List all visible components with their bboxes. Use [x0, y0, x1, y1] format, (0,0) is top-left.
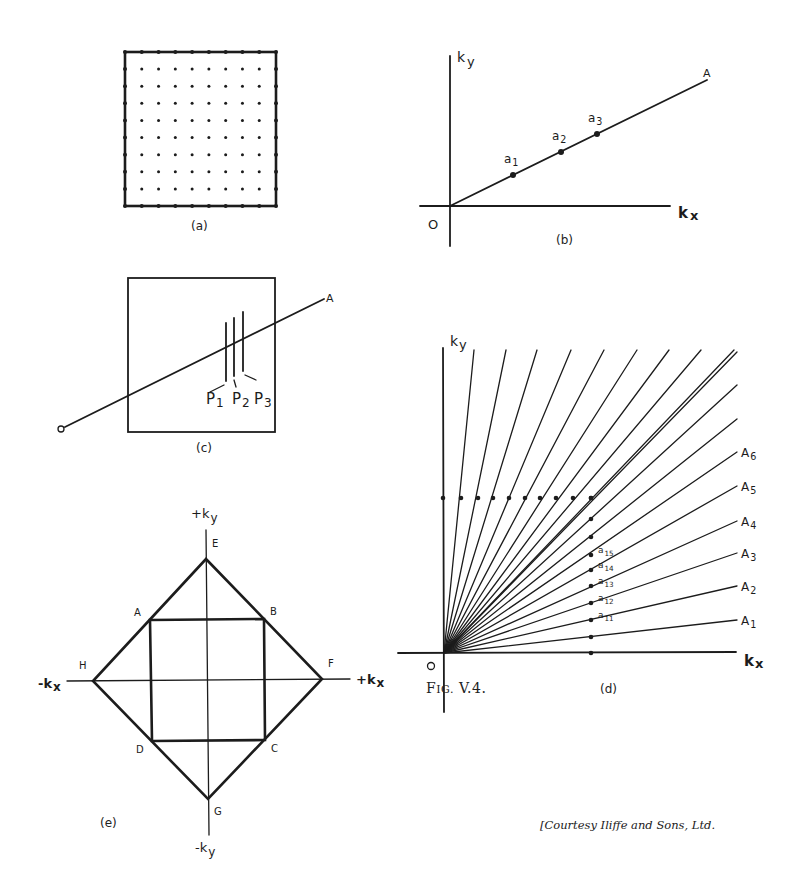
- lattice-point: [157, 102, 160, 105]
- figure-title: FIG. V.4.: [426, 680, 486, 696]
- ray: [444, 350, 701, 653]
- lattice-point: [241, 102, 244, 105]
- lattice-point: [258, 170, 261, 173]
- lattice-point: [157, 119, 160, 122]
- origin-label: O: [428, 217, 438, 232]
- ky-axis: [206, 530, 209, 835]
- panel-c-planes: P1P2P3 A (c): [58, 278, 334, 455]
- lattice-point: [241, 85, 244, 88]
- b-points: a1a2a3: [504, 111, 602, 178]
- lattice-point: [191, 153, 194, 156]
- k-point: [589, 584, 594, 589]
- k-point: [554, 496, 559, 501]
- d-labels: A6A5A4A3A2A1a15a14a13a12a11: [598, 446, 756, 630]
- caption-a: (a): [191, 219, 208, 233]
- courtesy-credit: [Courtesy Iliffe and Sons, Ltd.: [540, 818, 715, 832]
- pos-kx-label: +kx: [356, 672, 385, 690]
- lattice-point: [258, 136, 261, 139]
- ray: [444, 350, 669, 653]
- vertex-label-C: C: [271, 743, 278, 754]
- ray: [444, 350, 506, 653]
- label-P3: P3: [254, 390, 272, 410]
- label-a2: a2: [552, 129, 566, 145]
- k-point: [571, 496, 576, 501]
- lattice-point: [123, 136, 127, 140]
- lattice-point: [191, 102, 194, 105]
- d-rays: [444, 350, 737, 653]
- point-a3: [594, 131, 600, 137]
- lattice-point: [157, 68, 160, 71]
- point-label-a15: a15: [598, 545, 614, 558]
- ray: [444, 352, 737, 653]
- lattice-point: [258, 68, 261, 71]
- lattice-point: [191, 85, 194, 88]
- caption-b: (b): [556, 233, 573, 247]
- title-number: V.4.: [454, 680, 486, 696]
- k-point: [476, 496, 481, 501]
- lattice-point: [241, 187, 244, 190]
- vertex-label-B: B: [270, 606, 277, 617]
- title-prefix: F: [426, 680, 436, 696]
- lattice-point: [207, 85, 210, 88]
- lattice-point: [274, 50, 278, 54]
- lattice-point: [257, 50, 261, 54]
- lattice-point: [191, 119, 194, 122]
- k-point: [589, 496, 594, 501]
- lattice-point: [274, 101, 278, 105]
- lattice-point: [157, 136, 160, 139]
- panel-e-brillouin-zones: EFGHABCD +ky -ky +kx -kx (e): [38, 506, 385, 859]
- lattice-point: [274, 136, 278, 140]
- lattice-point: [140, 204, 144, 208]
- lattice-point: [258, 119, 261, 122]
- ray: [444, 452, 737, 653]
- lattice-point: [140, 68, 143, 71]
- lattice-point: [207, 153, 210, 156]
- panel-a-square-lattice: (a): [123, 50, 278, 233]
- vertex-label-A: A: [134, 607, 141, 618]
- crystal-box: [128, 278, 275, 432]
- point-label-a12: a12: [598, 593, 614, 606]
- point-label-a14: a14: [598, 560, 614, 573]
- label-a1: a1: [504, 152, 518, 168]
- caption-c: (c): [196, 441, 212, 455]
- lattice-point: [224, 170, 227, 173]
- kx-axis: [67, 679, 350, 681]
- lattice-point: [190, 50, 194, 54]
- lattice-point: [123, 67, 127, 71]
- lattice-point: [140, 50, 144, 54]
- lattice-point: [241, 153, 244, 156]
- lattice-dots: [123, 50, 278, 208]
- lattice-point: [173, 50, 177, 54]
- k-point: [538, 496, 543, 501]
- lattice-point: [174, 153, 177, 156]
- ray-label-A3: A3: [741, 547, 756, 563]
- lattice-point: [224, 136, 227, 139]
- lattice-point: [140, 136, 143, 139]
- label-P2: P2: [232, 390, 250, 410]
- ray-label-A5: A5: [741, 480, 756, 496]
- lattice-boundary: [125, 52, 276, 206]
- panel-d-ray-fan: A6A5A4A3A2A1a15a14a13a12a11 ky kx (d): [398, 333, 764, 712]
- lattice-point: [157, 204, 161, 208]
- k-point: [589, 618, 594, 623]
- k-point: [589, 517, 594, 522]
- figure-v4: (a) a1a2a3 ky kx O A (b) P1P2P3 A (c) A6…: [0, 0, 803, 894]
- lattice-point: [207, 68, 210, 71]
- lattice-point: [224, 187, 227, 190]
- ray: [444, 350, 571, 653]
- lattice-point: [274, 187, 278, 191]
- ray-label-A2: A2: [741, 580, 756, 596]
- vertex-label-D: D: [136, 744, 144, 755]
- ray: [444, 350, 474, 653]
- lattice-point: [191, 187, 194, 190]
- line-label-A: A: [326, 292, 334, 305]
- lattice-point: [240, 50, 244, 54]
- k-point: [441, 496, 446, 501]
- lattice-point: [274, 153, 278, 157]
- k-point: [507, 496, 512, 501]
- neg-kx-label: -kx: [38, 676, 61, 694]
- lattice-point: [157, 153, 160, 156]
- ray-label-A1: A1: [741, 614, 756, 630]
- label-P1: P1: [206, 390, 224, 410]
- lattice-point: [274, 67, 278, 71]
